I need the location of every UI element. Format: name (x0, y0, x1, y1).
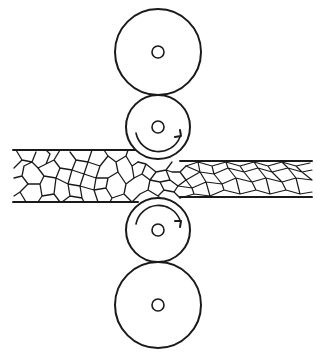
bottom-backup-roll-hub (152, 299, 164, 311)
bottom-work-roll (126, 198, 190, 262)
diagram-canvas (0, 0, 323, 363)
rolling-mill-diagram (0, 0, 323, 363)
top-backup-roll-hub (152, 46, 164, 58)
strip-exit-section (178, 161, 312, 198)
strip-entry-section (13, 150, 138, 202)
top-backup-roll (115, 9, 201, 95)
bottom-backup-roll (115, 262, 201, 348)
strip-bite-zone (132, 162, 186, 202)
top-work-roll (126, 95, 190, 159)
